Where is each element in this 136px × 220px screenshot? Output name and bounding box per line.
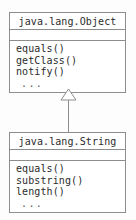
uml-class-subclass[interactable]: java.lang.String equals() substring() le… [9, 132, 126, 213]
operation-item: substring() [16, 175, 125, 187]
operation-item: length() [16, 186, 125, 198]
attributes-compartment-superclass [10, 30, 125, 41]
uml-class-diagram: java.lang.Object equals() getClass() not… [0, 0, 136, 220]
operations-ellipsis: ... [16, 198, 125, 210]
operations-compartment-superclass: equals() getClass() notify() ... [10, 41, 125, 92]
operations-compartment-subclass: equals() substring() length() ... [10, 161, 125, 212]
operation-item: notify() [16, 66, 125, 78]
operation-item: equals() [16, 43, 125, 55]
operation-item: getClass() [16, 55, 125, 67]
generalization-connector [60, 88, 77, 132]
class-name-superclass: java.lang.Object [10, 13, 125, 30]
operation-item: equals() [16, 163, 125, 175]
generalization-line [68, 100, 69, 132]
uml-class-superclass[interactable]: java.lang.Object equals() getClass() not… [9, 12, 126, 93]
class-name-subclass: java.lang.String [10, 133, 125, 150]
attributes-compartment-subclass [10, 150, 125, 161]
